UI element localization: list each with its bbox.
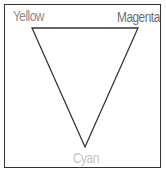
magenta-label: Magenta: [117, 10, 160, 24]
cyan-label: Cyan: [73, 151, 99, 165]
yellow-label: Yellow: [13, 9, 44, 23]
inverted-triangle: [32, 28, 138, 147]
triangle-diagram: [0, 0, 166, 173]
